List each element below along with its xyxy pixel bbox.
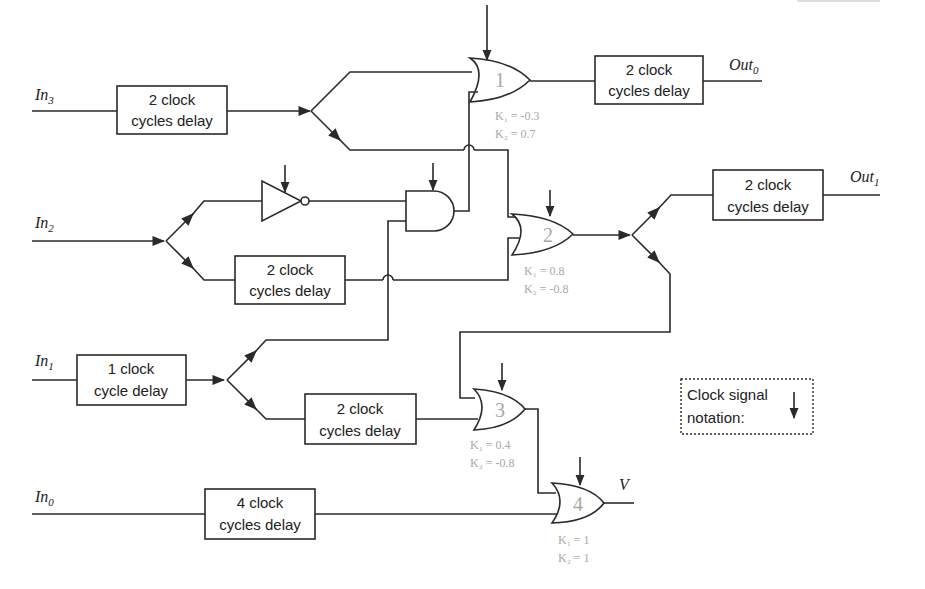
- gate2-split-lower-arrow: [632, 235, 659, 262]
- svg-text:cycles delay: cycles delay: [219, 516, 301, 533]
- delay-box-out1: 2 clock cycles delay: [713, 170, 823, 220]
- delay-box-in1-second: 2 clock cycles delay: [305, 394, 416, 444]
- gate3-k2: K₂ = -0.8: [470, 456, 515, 470]
- out1-label: Out1: [850, 168, 880, 188]
- svg-text:2 clock: 2 clock: [267, 261, 314, 278]
- and-gate: [406, 191, 454, 231]
- svg-text:cycles delay: cycles delay: [319, 422, 401, 439]
- svg-text:1: 1: [495, 69, 505, 91]
- in2-upper-wire: [192, 201, 262, 215]
- legend-line1: Clock signal: [687, 386, 768, 403]
- svg-text:2: 2: [543, 224, 553, 246]
- gate2-k2: K₂ = -0.8: [524, 282, 569, 296]
- or-gate-1: 1: [470, 58, 530, 102]
- delay-box-out0: 2 clock cycles delay: [595, 56, 703, 104]
- v-label: V: [619, 476, 631, 493]
- gate3-to-gate4-wire: [525, 409, 556, 493]
- svg-text:2 clock: 2 clock: [149, 91, 196, 108]
- svg-text:Out1: Out1: [850, 168, 880, 188]
- svg-text:In2: In2: [34, 214, 54, 234]
- in2-to-gate2-wire: [393, 238, 520, 280]
- gate2-split-upper-arrow: [632, 208, 659, 235]
- svg-text:V: V: [619, 476, 631, 493]
- svg-text:In3: In3: [34, 86, 54, 106]
- svg-text:4 clock: 4 clock: [237, 494, 284, 511]
- gate4-k1: K₁ = 1: [558, 533, 590, 547]
- in2-lower-wire: [192, 267, 235, 280]
- svg-text:cycles delay: cycles delay: [727, 198, 809, 215]
- in2-split-lower-arrow: [166, 241, 193, 268]
- and-to-gate1-wire: [454, 92, 478, 211]
- in1-split-lower-arrow: [227, 380, 256, 409]
- svg-text:In1: In1: [34, 352, 54, 372]
- in3-split-upper: [311, 72, 472, 111]
- svg-text:In0: In0: [34, 488, 54, 508]
- in3-label: In3: [34, 86, 54, 106]
- in1-split-upper-arrow: [227, 351, 256, 380]
- svg-text:cycles delay: cycles delay: [131, 112, 213, 129]
- in2-label: In2: [34, 214, 54, 234]
- gate1-k1: K₁ = -0.3: [495, 109, 540, 123]
- gate1-k2: K₂ = 0.7: [495, 127, 536, 141]
- legend-line2: notation:: [687, 409, 745, 426]
- svg-text:3: 3: [495, 399, 505, 421]
- circuit-diagram: In3 2 clock cycles delay 1 K₁ = -0.3 K₂ …: [0, 0, 925, 589]
- gate4-k2: K₂ = 1: [558, 551, 590, 565]
- svg-text:cycles delay: cycles delay: [608, 82, 690, 99]
- svg-text:cycle delay: cycle delay: [94, 382, 169, 399]
- or-gate-2: 2: [512, 214, 573, 255]
- delay-box-in2: 2 clock cycles delay: [235, 256, 345, 304]
- svg-text:2 clock: 2 clock: [337, 400, 384, 417]
- gate2-k1: K₁ = 0.8: [524, 264, 565, 278]
- in1-label: In1: [34, 352, 54, 372]
- svg-text:cycles delay: cycles delay: [249, 282, 331, 299]
- svg-text:2 clock: 2 clock: [626, 61, 673, 78]
- in2-split-upper-arrow: [166, 214, 193, 241]
- delay-box-in3: 2 clock cycles delay: [117, 86, 227, 134]
- or-gate-3: 3: [474, 389, 525, 430]
- in1-lower-wire: [255, 408, 305, 419]
- delay-box-in1: 1 clock cycle delay: [77, 355, 186, 405]
- or-gate-4: 4: [552, 483, 604, 523]
- gate2-to-out1-wire: [658, 195, 713, 209]
- in3-split-lower-arrow: [311, 111, 340, 140]
- in0-label: In0: [34, 488, 54, 508]
- svg-text:2 clock: 2 clock: [745, 176, 792, 193]
- out0-label: Out0: [729, 56, 759, 76]
- svg-text:4: 4: [573, 493, 583, 515]
- in3-lower-wire-a: [339, 139, 464, 150]
- svg-text:Out0: Out0: [729, 56, 759, 76]
- delay-box-in0: 4 clock cycles delay: [205, 489, 315, 539]
- clock-legend: Clock signal notation:: [681, 379, 813, 434]
- in3-to-gate2-wire: [474, 150, 518, 217]
- gate3-k1: K₁ = 0.4: [470, 438, 511, 452]
- svg-text:1 clock: 1 clock: [108, 360, 155, 377]
